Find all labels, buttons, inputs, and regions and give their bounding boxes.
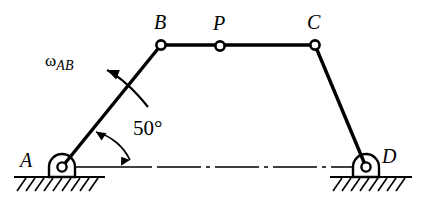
- joint-a-pin: [57, 162, 66, 171]
- ground-hatch-d: [330, 177, 412, 191]
- joint-c-pin: [310, 40, 319, 49]
- label-angle-50: 50°: [133, 118, 162, 139]
- joint-d-pin: [361, 162, 370, 171]
- label-joint-b: B: [154, 12, 166, 32]
- omega-subscript: AB: [56, 58, 74, 73]
- angle-arc-50: [96, 132, 130, 166]
- joint-p-pin: [215, 41, 224, 50]
- joint-b-pin: [156, 40, 165, 49]
- linkage-figure: A B P C D 50° ωAB: [0, 0, 422, 212]
- label-joint-a: A: [20, 150, 32, 170]
- label-joint-d: D: [382, 146, 396, 166]
- omega-symbol: ω: [45, 51, 56, 70]
- ground-hatch-a: [14, 177, 105, 191]
- label-joint-c: C: [307, 12, 320, 32]
- link-cd: [315, 45, 366, 167]
- linkage-drawing: [0, 0, 422, 212]
- label-joint-p: P: [213, 13, 225, 33]
- label-omega-ab: ωAB: [45, 52, 74, 73]
